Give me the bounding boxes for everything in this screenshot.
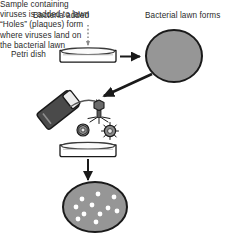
- plaque-dish-side-icon: [60, 142, 116, 156]
- plaque-dot: [80, 197, 85, 202]
- figure-canvas: Bacteria added Bacterial lawn forms Petr…: [0, 0, 248, 234]
- plaque-dot: [74, 205, 79, 210]
- plaque-dot: [96, 192, 101, 197]
- plaque-dot: [106, 206, 111, 211]
- plaque-dot: [115, 209, 120, 214]
- petri-dish-side-icon: [60, 48, 116, 62]
- virus-particle-icon: [102, 123, 119, 140]
- plaque-dish-icon: [63, 182, 127, 232]
- virus-particle-icon: [77, 124, 89, 136]
- bacterial-lawn-icon: [146, 30, 202, 82]
- plaque-dot: [90, 203, 95, 208]
- plaque-dot: [76, 217, 81, 222]
- plaque-dot: [94, 220, 99, 225]
- bacteriophage-icon: [88, 100, 110, 124]
- arrow-diagonal-icon: [104, 74, 152, 96]
- sample-tube-icon: [36, 89, 81, 131]
- plaque-dot: [98, 212, 103, 217]
- plaque-dot: [112, 195, 117, 200]
- diagram-artwork: [0, 0, 248, 234]
- plaque-dot: [82, 212, 87, 217]
